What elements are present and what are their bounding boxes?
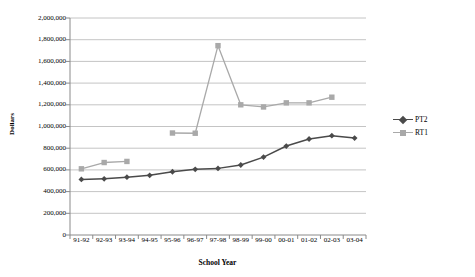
series-line-rt1 xyxy=(195,46,218,134)
data-point-rt1[interactable] xyxy=(261,104,266,109)
x-tick-label: 96-97 xyxy=(187,236,203,244)
series-line-pt2 xyxy=(150,172,173,176)
series-line-pt2 xyxy=(195,168,218,169)
series-line-pt2 xyxy=(81,179,104,180)
x-tick-label: 91-92 xyxy=(73,236,89,244)
data-point-pt2[interactable] xyxy=(352,135,358,141)
data-point-pt2[interactable] xyxy=(78,177,84,183)
data-point-pt2[interactable] xyxy=(215,165,221,171)
data-point-rt1[interactable] xyxy=(215,43,220,48)
x-tick-label: 99-00 xyxy=(255,236,271,244)
line-chart: Dollars 0200,000400,000600,000800,0001,0… xyxy=(0,0,475,277)
data-point-pt2[interactable] xyxy=(147,172,153,178)
data-point-pt2[interactable] xyxy=(238,162,244,168)
chart-legend: PT2 RT1 xyxy=(393,113,473,139)
x-tick-label: 02-03 xyxy=(324,236,340,244)
legend-label-rt1: RT1 xyxy=(415,128,428,137)
x-tick-label: 98-99 xyxy=(233,236,249,244)
x-tick-label: 01-02 xyxy=(301,236,317,244)
data-point-pt2[interactable] xyxy=(261,154,267,160)
data-point-pt2[interactable] xyxy=(329,133,335,139)
legend-marker-rt1 xyxy=(400,130,406,136)
legend-marker-pt2 xyxy=(399,115,407,123)
data-point-rt1[interactable] xyxy=(79,166,84,171)
series-line-pt2 xyxy=(218,165,241,168)
data-point-rt1[interactable] xyxy=(329,95,334,100)
data-point-pt2[interactable] xyxy=(306,136,312,142)
series-line-rt1 xyxy=(81,163,104,169)
x-tick-label: 00-01 xyxy=(278,236,294,244)
data-point-rt1[interactable] xyxy=(306,100,311,105)
data-point-rt1[interactable] xyxy=(238,102,243,107)
series-line-pt2 xyxy=(309,136,332,139)
data-point-rt1[interactable] xyxy=(193,131,198,136)
legend-swatch-pt2 xyxy=(393,115,413,125)
x-tick-label: 93-94 xyxy=(119,236,135,244)
series-line-rt1 xyxy=(218,46,241,105)
series-line-rt1 xyxy=(309,97,332,103)
x-tick-label: 03-04 xyxy=(346,236,362,244)
series-line-pt2 xyxy=(104,177,127,179)
series-line-rt1 xyxy=(104,161,127,162)
series-line-pt2 xyxy=(264,146,287,157)
series-line-pt2 xyxy=(286,139,309,146)
x-tick-label: 95-96 xyxy=(164,236,180,244)
data-point-rt1[interactable] xyxy=(101,160,106,165)
data-point-pt2[interactable] xyxy=(192,166,198,172)
data-point-rt1[interactable] xyxy=(284,100,289,105)
x-tick-label: 94-95 xyxy=(142,236,158,244)
data-point-pt2[interactable] xyxy=(124,174,130,180)
data-point-rt1[interactable] xyxy=(124,159,129,164)
series-line-pt2 xyxy=(332,136,355,138)
x-tick-label: 92-93 xyxy=(96,236,112,244)
x-tick-label: 97-98 xyxy=(210,236,226,244)
legend-swatch-rt1 xyxy=(393,128,413,138)
legend-item-rt1[interactable]: RT1 xyxy=(393,126,473,139)
data-point-rt1[interactable] xyxy=(170,130,175,135)
data-point-pt2[interactable] xyxy=(101,176,107,182)
legend-item-pt2[interactable]: PT2 xyxy=(393,113,473,126)
series-line-pt2 xyxy=(127,175,150,177)
series-line-pt2 xyxy=(241,157,264,165)
legend-label-pt2: PT2 xyxy=(415,115,428,124)
